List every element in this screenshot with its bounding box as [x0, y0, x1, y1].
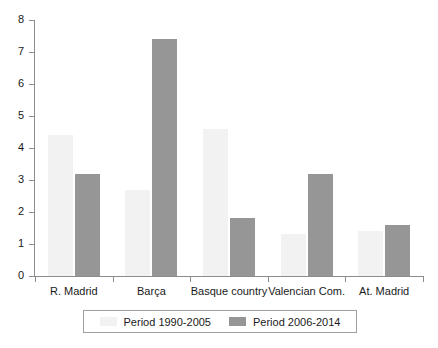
y-axis-tick-label: 6 — [4, 78, 24, 89]
bar — [385, 225, 410, 276]
y-axis-tick-label: 2 — [4, 206, 24, 217]
x-axis-tick — [345, 277, 346, 282]
x-axis-tick — [35, 277, 36, 282]
y-axis-tick-label: 7 — [4, 46, 24, 57]
bar — [358, 231, 383, 276]
y-axis-tick-label: 5 — [4, 110, 24, 121]
bar — [308, 174, 333, 276]
x-axis-category-label: Valencian Com. — [268, 285, 346, 297]
x-axis-category-label: Barça — [113, 285, 191, 297]
x-axis-line — [34, 276, 424, 277]
y-axis-tick-label: 0 — [4, 270, 24, 281]
light-gray-swatch-icon — [100, 317, 117, 326]
x-axis-category-label: Basque country — [190, 285, 268, 297]
x-axis-category-label: At. Madrid — [345, 285, 423, 297]
bar-chart: 012345678 R. MadridBarçaBasque countryVa… — [0, 0, 438, 348]
x-axis-tick — [268, 277, 269, 282]
y-axis-tick-label: 4 — [4, 142, 24, 153]
x-axis-category-label: R. Madrid — [35, 285, 113, 297]
y-axis-tick — [29, 148, 34, 149]
x-axis-tick — [423, 277, 424, 282]
bar — [230, 218, 255, 276]
bar — [75, 174, 100, 276]
legend-label: Period 2006-2014 — [253, 316, 340, 328]
y-axis-tick — [29, 244, 34, 245]
x-axis-tick — [113, 277, 114, 282]
dark-gray-swatch-icon — [229, 317, 246, 326]
bar — [203, 129, 228, 276]
y-axis-tick-label: 3 — [4, 174, 24, 185]
y-axis-tick-label: 8 — [4, 14, 24, 25]
bar — [48, 135, 73, 276]
chart-legend: Period 1990-2005 Period 2006-2014 — [83, 310, 357, 333]
legend-entry-period-2006-2014: Period 2006-2014 — [229, 316, 340, 328]
y-axis-tick — [29, 276, 34, 277]
bar — [281, 234, 306, 276]
y-axis-tick — [29, 52, 34, 53]
y-axis-tick-label: 1 — [4, 238, 24, 249]
legend-entry-period-1990-2005: Period 1990-2005 — [100, 316, 211, 328]
bar — [125, 190, 150, 276]
bar — [152, 39, 177, 276]
y-axis-tick — [29, 20, 34, 21]
y-axis-tick — [29, 180, 34, 181]
x-axis-tick — [190, 277, 191, 282]
plot-area — [35, 20, 423, 276]
legend-label: Period 1990-2005 — [124, 316, 211, 328]
y-axis-tick — [29, 84, 34, 85]
y-axis-tick — [29, 116, 34, 117]
y-axis-tick — [29, 212, 34, 213]
